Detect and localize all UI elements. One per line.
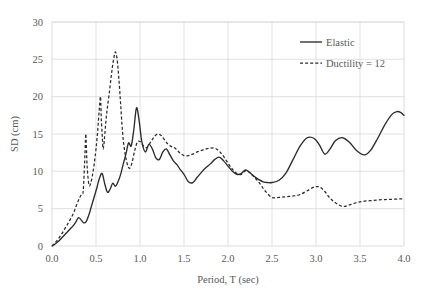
y-tick-labels: 051015202530 xyxy=(33,17,44,252)
y-tick-label: 0 xyxy=(38,241,43,252)
legend-label: Ductility = 12 xyxy=(326,58,385,69)
x-tick-label: 2.5 xyxy=(265,253,278,264)
x-tick-label: 2.0 xyxy=(221,253,234,264)
x-tick-label: 3.0 xyxy=(309,253,322,264)
y-tick-label: 30 xyxy=(33,17,44,28)
x-tick-labels: 0.00.51.01.52.02.53.03.54.0 xyxy=(45,253,410,264)
x-tick-label: 0.5 xyxy=(89,253,102,264)
y-tick-label: 25 xyxy=(33,54,44,65)
x-tick-label: 1.0 xyxy=(133,253,146,264)
spectral-displacement-chart: 0.00.51.01.52.02.53.03.54.0 051015202530… xyxy=(0,0,424,299)
y-tick-label: 5 xyxy=(38,203,43,214)
x-tick-label: 1.5 xyxy=(177,253,190,264)
y-axis-title: SD (cm) xyxy=(9,116,21,152)
x-tick-label: 0.0 xyxy=(45,253,58,264)
legend-label: Elastic xyxy=(326,37,355,48)
x-tick-label: 3.5 xyxy=(353,253,366,264)
y-tick-label: 10 xyxy=(33,166,44,177)
y-tick-label: 20 xyxy=(33,91,44,102)
y-tick-label: 15 xyxy=(33,129,44,140)
x-axis-title: Period, T (sec) xyxy=(197,274,259,286)
x-tick-label: 4.0 xyxy=(397,253,410,264)
chart-svg: 0.00.51.01.52.02.53.03.54.0 051015202530… xyxy=(0,0,424,299)
